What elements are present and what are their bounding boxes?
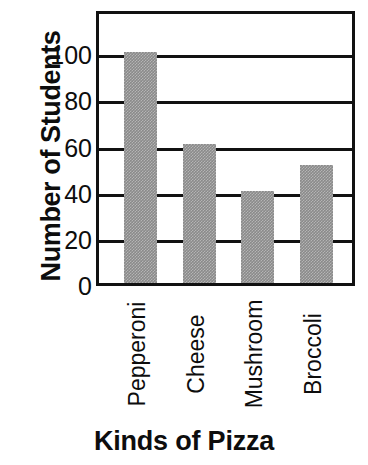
x-label-slot-pepperoni: Pepperoni [108, 286, 166, 421]
bar-chart-screenshot: Number of Students 100 80 60 40 20 0 [0, 0, 368, 465]
y-tick-label: 60 [30, 136, 92, 161]
plot-area [96, 11, 355, 286]
x-axis-category-labels: Pepperoni Cheese Mushroom Broccoli [96, 286, 355, 421]
x-tick-label-cheese: Cheese [184, 314, 208, 393]
y-tick-label: 80 [30, 89, 92, 114]
x-label-slot-cheese: Cheese [167, 286, 225, 421]
y-tick-label: 0 [30, 274, 92, 299]
x-label-slot-broccoli: Broccoli [284, 286, 342, 421]
x-tick-label-pepperoni: Pepperoni [125, 301, 149, 406]
bars-layer [99, 14, 352, 283]
x-axis-title: Kinds of Pizza [0, 426, 368, 457]
y-tick-label: 40 [30, 182, 92, 207]
x-label-slot-mushroom: Mushroom [225, 286, 283, 421]
y-tick-label: 20 [30, 228, 92, 253]
x-tick-label-broccoli: Broccoli [301, 313, 325, 395]
y-tick-label: 100 [30, 43, 92, 68]
bar-mushroom [241, 191, 274, 283]
bar-broccoli [300, 165, 333, 283]
y-axis-tick-labels: 100 80 60 40 20 0 [30, 0, 92, 300]
bar-pepperoni [124, 52, 157, 283]
x-tick-label-mushroom: Mushroom [242, 299, 266, 408]
bar-cheese [183, 144, 216, 283]
